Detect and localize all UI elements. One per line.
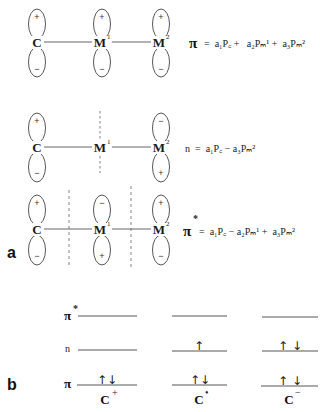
svg-text:−: −: [295, 387, 301, 398]
species-label: C: [194, 392, 203, 407]
pi-star-orbital-row: + − − + + − C M 1 M 2 π * = a₁P꜀ − a₂Pₘ¹…: [7, 186, 295, 268]
svg-text:2: 2: [166, 220, 170, 228]
atom-c: C: [32, 222, 41, 237]
electron-pair: ↑↓: [190, 373, 210, 387]
atom-m2: M: [153, 35, 165, 50]
allyl-orbital-diagram: + − + − + − C M 1 M 2 π = a₁P꜀ + a₂Pₘ¹ +…: [0, 0, 334, 412]
equation-pi-star: = a₁P꜀ − a₂Pₘ¹ + a₃Pₘ²: [199, 226, 295, 237]
atom-m1: M: [94, 35, 106, 50]
atom-m2: M: [153, 222, 165, 237]
n-orbital-row: + − − + C M 1 M 2 n = a₁P꜀ − a₃Pₘ²: [29, 111, 256, 182]
atom-m2: M: [153, 140, 165, 155]
sign: −: [34, 64, 39, 74]
svg-text:+: +: [158, 198, 163, 208]
atom-c: C: [32, 35, 41, 50]
sign: +: [34, 12, 39, 22]
equation-symbol: π: [189, 35, 198, 51]
svg-text:−: −: [99, 198, 104, 208]
svg-text:*: *: [73, 303, 78, 314]
level-label-pi: π: [64, 376, 71, 391]
equation-symbol: n: [185, 143, 190, 154]
atom-c: C: [32, 140, 41, 155]
electron-pair: ↑↓: [97, 373, 117, 387]
electron-single: ↑: [194, 339, 204, 353]
svg-text:+: +: [158, 168, 163, 178]
svg-text:−: −: [158, 251, 163, 261]
equation-symbol: π: [183, 223, 192, 239]
svg-text:1: 1: [107, 138, 111, 146]
atom-m1: M: [94, 140, 106, 155]
svg-text:−: −: [34, 251, 39, 261]
svg-text:2: 2: [166, 138, 170, 146]
energy-level-diagram: π * n π ↑↓ C + ↑ ↑↓ C • ↑ ↓ ↑ ↓ C − b: [7, 303, 318, 407]
panel-label-a: a: [7, 244, 16, 261]
svg-text:1: 1: [107, 33, 111, 41]
sign: −: [99, 64, 104, 74]
sign: −: [158, 64, 163, 74]
level-label-n: n: [65, 343, 70, 354]
svg-text:+: +: [112, 387, 118, 398]
species-label: C: [284, 392, 293, 407]
electron-pair: ↑ ↓: [278, 339, 302, 353]
svg-text:+: +: [99, 251, 104, 261]
panel-label-b: b: [7, 376, 17, 393]
svg-text:+: +: [34, 116, 39, 126]
pi-orbital-row: + − + − + − C M 1 M 2 π = a₁P꜀ + a₂Pₘ¹ +…: [29, 9, 305, 77]
svg-text:2: 2: [166, 33, 170, 41]
svg-text:−: −: [158, 116, 163, 126]
svg-text:−: −: [34, 168, 39, 178]
atom-m1: M: [94, 222, 106, 237]
electron-pair: ↑ ↓: [278, 374, 302, 388]
species-label: C: [100, 392, 109, 407]
level-label-pi-star: π: [64, 308, 71, 323]
svg-text:1: 1: [107, 220, 111, 228]
svg-text:•: •: [205, 387, 209, 398]
equation-n: = a₁P꜀ − a₃Pₘ²: [195, 143, 255, 154]
sign: +: [158, 12, 163, 22]
equation-pi: = a₁P꜀ + a₂Pₘ¹ + a₃Pₘ²: [204, 38, 305, 49]
svg-text:+: +: [34, 198, 39, 208]
star: *: [193, 213, 198, 224]
sign: +: [99, 12, 104, 22]
